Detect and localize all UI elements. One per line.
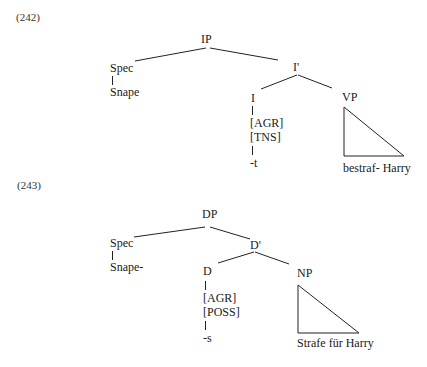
head-morpheme: -t: [250, 157, 257, 169]
branch-dp-spec: [134, 227, 205, 237]
np-content: Strafe für Harry: [297, 337, 374, 349]
head-vertical-line-bottom: [205, 321, 206, 330]
node-np: NP: [297, 267, 312, 279]
node-spec: Spec: [110, 62, 133, 74]
branch-dp-dbar: [210, 227, 250, 239]
branch-ip-spec: [135, 48, 206, 61]
feature-tns: [TNS]: [250, 131, 281, 143]
node-d: D: [203, 265, 212, 277]
spec-vertical-line: [112, 251, 113, 260]
node-dp: DP: [202, 208, 217, 220]
node-i: I: [251, 92, 255, 104]
example-number: (243): [17, 179, 41, 191]
head-vertical-line-top: [205, 281, 206, 290]
branch-ibar-vp: [298, 75, 332, 88]
feature-agr: [AGR]: [250, 117, 283, 129]
branch-dbar-np: [255, 252, 289, 264]
branch-ibar-i: [261, 75, 297, 89]
node-ip: IP: [201, 33, 212, 45]
spec-word: Snape-: [110, 261, 143, 273]
spec-word: Snape: [110, 86, 139, 98]
spec-vertical-line: [112, 76, 113, 85]
head-morpheme: -s: [203, 332, 212, 344]
node-dbar: D': [250, 239, 261, 251]
node-ibar: I': [293, 61, 299, 73]
example-number: (242): [16, 11, 40, 23]
branch-ip-ibar: [210, 48, 278, 60]
feature-agr: [AGR]: [203, 292, 236, 304]
head-vertical-line-bottom: [252, 146, 253, 155]
vp-content: bestraf- Harry: [343, 162, 411, 174]
feature-poss: [POSS]: [203, 306, 240, 318]
node-spec: Spec: [110, 237, 133, 249]
vp-triangle: [344, 107, 404, 156]
branch-dbar-d: [218, 252, 254, 263]
head-vertical-line-top: [252, 106, 253, 115]
node-vp: VP: [342, 91, 357, 103]
np-triangle: [298, 285, 359, 333]
